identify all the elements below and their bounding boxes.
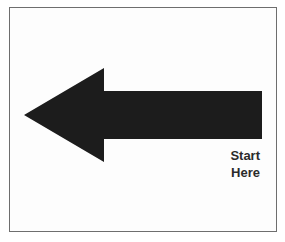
arrow-shape — [24, 68, 262, 162]
label-line-here: Here — [230, 164, 260, 181]
start-here-label: Start Here — [230, 147, 260, 181]
label-line-start: Start — [230, 147, 260, 164]
left-arrow-icon — [0, 0, 285, 242]
